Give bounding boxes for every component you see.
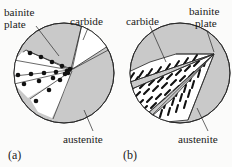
carbide-particle: [29, 72, 34, 77]
carbide-particle: [51, 76, 56, 81]
carbide-particle: [47, 88, 52, 93]
figure-container: bainite plate carbide austenite (a): [0, 0, 232, 167]
panel-b-austenite-label: austenite: [178, 133, 218, 145]
carbide-particle: [66, 71, 71, 76]
carbide-particle: [60, 64, 65, 69]
carbide-particle: [22, 82, 27, 87]
carbide-particle: [34, 99, 39, 104]
panel-a-bainite-plate-label-line2: plate: [4, 18, 26, 30]
panel-b-caption: (b): [123, 148, 137, 162]
bainite-diagram-svg: bainite plate carbide austenite (a): [0, 0, 232, 167]
carbide-particle: [28, 51, 33, 56]
carbide-particle: [39, 55, 44, 60]
carbide-particle: [16, 73, 21, 78]
carbide-particle: [42, 71, 47, 76]
panel-a-carbide-label: carbide: [70, 15, 103, 27]
carbide-particle: [58, 78, 63, 83]
panel-a-bainite-plate-label-line1: bainite: [4, 6, 34, 18]
carbide-particle: [50, 60, 55, 65]
carbide-particle: [54, 70, 59, 75]
panel-b-carbide-label: carbide: [126, 15, 159, 27]
panel-b: carbide bainite plate austenite (b): [118, 5, 230, 162]
carbide-particle: [37, 79, 42, 84]
panel-b-bainite-plate-label-line2: plate: [195, 17, 217, 29]
panel-a: bainite plate carbide austenite (a): [4, 6, 114, 162]
panel-a-caption: (a): [8, 148, 21, 162]
panel-a-austenite-label: austenite: [63, 133, 103, 145]
panel-b-bainite-plate-label-line1: bainite: [189, 5, 219, 17]
